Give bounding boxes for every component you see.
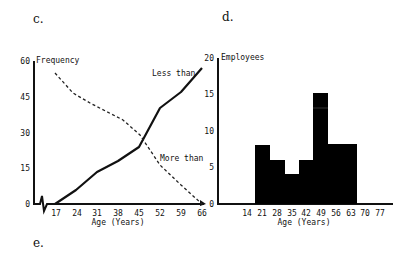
right-xtick: 42 bbox=[301, 209, 311, 218]
right-xtick: 77 bbox=[375, 209, 385, 218]
right-xtick: 21 bbox=[257, 209, 267, 218]
left-ytick: 45 bbox=[20, 93, 30, 102]
left-y-axis-title: Frequency bbox=[36, 56, 80, 65]
ogive-chart: 60 45 30 15 0 17 24 31 38 45 52 59 66 Fr… bbox=[20, 56, 207, 227]
left-ytick: 30 bbox=[20, 129, 30, 138]
right-ytick: 20 bbox=[204, 54, 214, 63]
histogram-chart: 20 15 10 5 0 Employees 14 21 28 35 42 49… bbox=[204, 53, 393, 227]
right-xtick: 35 bbox=[287, 209, 297, 218]
histogram-bar bbox=[299, 160, 313, 204]
histogram-bar bbox=[285, 174, 299, 204]
right-xtick: 28 bbox=[272, 209, 282, 218]
left-ytick: 0 bbox=[25, 200, 30, 209]
less-than-line bbox=[55, 68, 202, 204]
right-xtick: 14 bbox=[242, 209, 252, 218]
left-x-axis-title: Age (Years) bbox=[92, 218, 145, 227]
left-xtick: 17 bbox=[51, 209, 61, 218]
more-than-annotation: More than bbox=[160, 154, 204, 163]
histogram-bar bbox=[270, 160, 285, 204]
left-xtick: 66 bbox=[197, 209, 207, 218]
histogram-bar bbox=[255, 145, 270, 204]
left-ytick: 60 bbox=[20, 57, 30, 66]
left-xtick: 52 bbox=[155, 209, 165, 218]
left-xtick: 45 bbox=[134, 209, 144, 218]
histogram-bar bbox=[343, 144, 357, 204]
histogram-bar bbox=[328, 144, 343, 204]
charts-canvas: 60 45 30 15 0 17 24 31 38 45 52 59 66 Fr… bbox=[0, 0, 410, 253]
right-ytick: 10 bbox=[204, 127, 214, 136]
right-ytick: 0 bbox=[209, 200, 214, 209]
right-xtick: 49 bbox=[316, 209, 326, 218]
less-than-annotation: Less than bbox=[152, 69, 196, 78]
right-xtick: 56 bbox=[331, 209, 341, 218]
left-xtick: 59 bbox=[176, 209, 186, 218]
left-xtick: 31 bbox=[92, 209, 102, 218]
right-y-axis-title: Employees bbox=[221, 53, 265, 62]
left-xtick: 38 bbox=[113, 209, 123, 218]
right-ytick: 5 bbox=[209, 163, 214, 172]
right-xtick: 70 bbox=[360, 209, 370, 218]
right-ytick: 15 bbox=[204, 90, 214, 99]
right-xtick: 63 bbox=[346, 209, 356, 218]
right-x-axis-title: Age (Years) bbox=[278, 218, 331, 227]
left-ytick: 15 bbox=[20, 164, 30, 173]
left-xtick: 24 bbox=[72, 209, 82, 218]
histogram-bar bbox=[313, 93, 328, 204]
